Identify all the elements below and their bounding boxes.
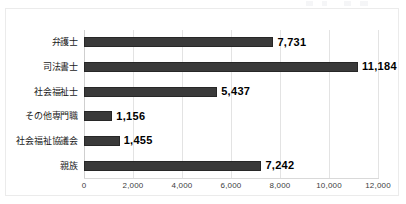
x-tick-label: 6,000 [220, 181, 241, 190]
category-label: その他専門職 [0, 111, 78, 121]
bar-rows: 弁護士7,731司法書士11,184社会福祉士5,437その他専門職1,156社… [0, 30, 406, 178]
x-axis-line [84, 178, 379, 179]
bar [84, 87, 217, 97]
x-tick-label: 2,000 [122, 181, 143, 190]
bar-value-label: 7,731 [277, 37, 306, 48]
category-label: 親族 [0, 161, 78, 171]
bar-value-label: 1,156 [116, 111, 145, 122]
bar-row: 社会福祉士5,437 [0, 79, 406, 104]
category-label: 社会福祉協議会 [0, 136, 78, 146]
x-tick-label: 8,000 [269, 181, 290, 190]
cropped-caption-artifact [300, 1, 380, 6]
bar-row: 司法書士11,184 [0, 55, 406, 80]
bar-row: 親族7,242 [0, 153, 406, 178]
bar [84, 136, 120, 146]
x-axis-tick-labels: 02,0004,0006,0008,00010,00012,000 [0, 181, 406, 197]
bar [84, 37, 273, 47]
bar-value-label: 1,455 [124, 135, 153, 146]
bar-value-label: 5,437 [221, 86, 250, 97]
x-tick-label: 12,000 [365, 181, 391, 190]
bar-row: 社会福祉協議会1,455 [0, 129, 406, 154]
bar-value-label: 7,242 [265, 160, 294, 171]
x-tick-label: 10,000 [316, 181, 342, 190]
bar-row: その他専門職1,156 [0, 104, 406, 129]
category-label: 司法書士 [0, 62, 78, 72]
bar [84, 111, 112, 121]
x-tick-label: 4,000 [171, 181, 192, 190]
bar-value-label: 11,184 [362, 61, 397, 72]
bar [84, 161, 261, 171]
bar-row: 弁護士7,731 [0, 30, 406, 55]
x-tick-label: 0 [82, 181, 87, 190]
category-label: 弁護士 [0, 37, 78, 47]
bar-chart: 弁護士7,731司法書士11,184社会福祉士5,437その他専門職1,156社… [0, 0, 406, 204]
bar [84, 62, 358, 72]
category-label: 社会福祉士 [0, 87, 78, 97]
